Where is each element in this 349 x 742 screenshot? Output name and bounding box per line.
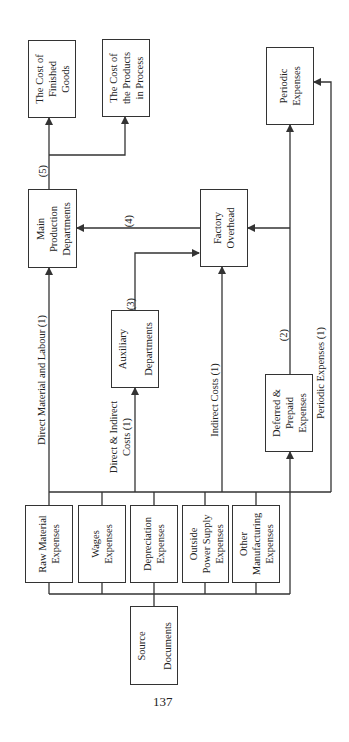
cost-of-finished-goods-box: The Cost of Finished Goods [28, 40, 76, 118]
box-label: Main Production Departments [33, 202, 72, 256]
wages-expenses-box: Wages Expenses [78, 505, 126, 583]
depreciation-expenses-box: Depreciation Expenses [130, 505, 178, 583]
box-label: The Cost of the Products in Process [107, 52, 146, 104]
edge-label-periodic-expenses: Periodic Expenses (1) [314, 327, 327, 419]
edge-label-indirect-costs: Indirect Costs (1) [208, 363, 221, 437]
source-documents-box: Source Documents [130, 606, 178, 685]
edge-label-direct-indirect-costs: Direct & Indirect Costs (1) [107, 401, 133, 473]
page-number: 137 [153, 694, 173, 710]
box-label: Deferred & Prepaid Expenses [270, 389, 309, 437]
deferred-prepaid-expenses-box: Deferred & Prepaid Expenses [265, 374, 313, 452]
periodic-expenses-box: Periodic Expenses [266, 47, 314, 125]
factory-overhead-box: Factory Overhead [200, 189, 248, 267]
box-label: Raw Material Expenses [36, 515, 62, 572]
box-label: Periodic Expenses [277, 66, 303, 106]
box-label: Other Manufacturing Expenses [237, 513, 276, 575]
edge-label-step-4: (4) [122, 215, 135, 227]
box-label: The Cost of Finished Goods [33, 54, 72, 104]
cost-of-products-in-process-box: The Cost of the Products in Process [102, 39, 150, 117]
edge-label-direct-material-labour: Direct Material and Labour (1) [35, 315, 48, 445]
main-production-departments-box: Main Production Departments [28, 189, 77, 268]
auxiliary-departments-box: Auxiliary Departments [111, 310, 159, 388]
box-label: Wages Expenses [89, 524, 115, 564]
edge-label-step-5: (5) [36, 165, 49, 177]
other-manufacturing-expenses-box: Other Manufacturing Expenses [232, 505, 280, 583]
box-label: Auxiliary Departments [116, 322, 155, 376]
edge-label-step-3: (3) [124, 298, 137, 310]
box-label: Outside Power Supply Expenses [186, 514, 225, 573]
box-label: Source Documents [135, 622, 174, 670]
box-label: Factory Overhead [211, 208, 237, 249]
raw-material-expenses-box: Raw Material Expenses [25, 505, 73, 583]
edge-label-step-2: (2) [277, 329, 290, 341]
box-label: Depreciation Expenses [141, 517, 167, 571]
outside-power-supply-expenses-box: Outside Power Supply Expenses [182, 505, 229, 583]
